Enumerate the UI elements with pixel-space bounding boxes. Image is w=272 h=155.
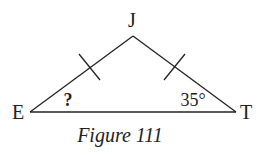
vertex-label-T: T: [240, 101, 252, 123]
tick-mark-JT: [164, 54, 185, 80]
triangle-diagram: J E T ? 35° Figure 111: [0, 0, 272, 155]
tick-mark-EJ: [79, 54, 100, 80]
angle-label-T: 35°: [180, 90, 205, 110]
side-EJ: [30, 36, 133, 112]
figure-caption: Figure 111: [76, 124, 163, 147]
vertex-label-J: J: [128, 9, 136, 31]
angle-label-E: ?: [64, 90, 73, 110]
vertex-label-E: E: [12, 101, 24, 123]
